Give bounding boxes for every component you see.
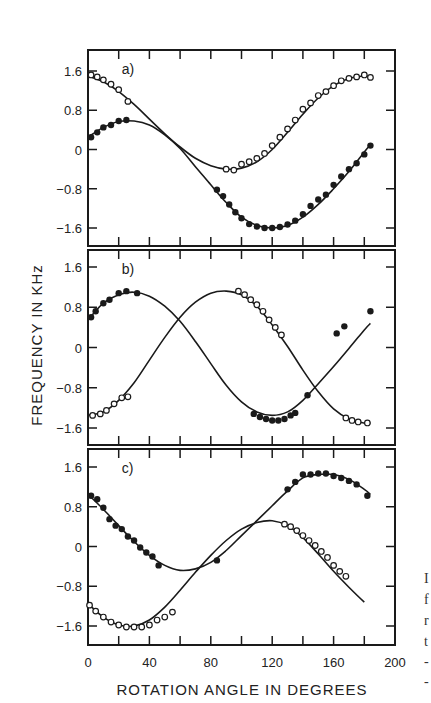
data-point-filled [149, 553, 155, 559]
data-point-open [323, 89, 329, 95]
data-point-filled [125, 533, 131, 539]
y-tick-label: 0.8 [64, 103, 82, 118]
x-tick-labels: 04080120160200 [84, 655, 405, 670]
data-point-filled [123, 117, 129, 123]
data-point-filled [108, 122, 114, 128]
data-point-open [346, 76, 352, 82]
data-point-filled [353, 481, 359, 487]
x-tick-label: 200 [384, 655, 406, 670]
x-tick-label: 0 [84, 655, 91, 670]
data-point-filled [88, 314, 94, 320]
data-point-filled [333, 330, 339, 336]
data-point-open [315, 93, 321, 99]
data-point-open [272, 325, 278, 331]
data-point-open [254, 302, 260, 308]
data-point-filled [246, 221, 252, 227]
data-point-open [170, 609, 176, 615]
data-point-open [131, 624, 137, 630]
panel-b: 1.60.80−0.8−1.6b) [56, 250, 395, 445]
data-point-open [125, 99, 131, 105]
data-point-filled [123, 288, 129, 294]
panel-label: a) [122, 61, 134, 77]
data-point-filled [232, 209, 238, 215]
data-point-open [338, 78, 344, 84]
data-point-open [355, 419, 361, 425]
data-point-open [223, 166, 229, 172]
data-point-open [147, 622, 153, 628]
caption-fragment: r [424, 613, 429, 628]
data-point-open [362, 72, 368, 78]
caption-fragment: - [424, 654, 429, 669]
y-tick-label: −1.6 [56, 619, 82, 634]
data-point-filled [214, 187, 220, 193]
panel-c: 1.60.80−0.8−1.6c) [56, 449, 395, 645]
data-point-open [262, 151, 268, 157]
data-point-open [248, 297, 254, 303]
data-point-filled [364, 493, 370, 499]
data-point-filled [277, 224, 283, 230]
data-point-filled [106, 516, 112, 522]
data-point-filled [88, 134, 94, 140]
data-point-filled [251, 411, 257, 417]
data-point-filled [307, 471, 313, 477]
data-point-open [139, 624, 145, 630]
data-point-open [87, 602, 93, 608]
data-point-open [239, 161, 245, 167]
x-axis-title: ROTATION ANGLE IN DEGREES [116, 681, 367, 698]
x-tick-label: 160 [323, 655, 345, 670]
data-point-filled [300, 211, 306, 217]
data-point-filled [131, 537, 137, 543]
data-point-filled [284, 221, 290, 227]
panel-label: c) [122, 460, 134, 476]
data-point-filled [94, 129, 100, 135]
data-point-open [108, 81, 114, 87]
data-point-open [300, 106, 306, 112]
data-point-open [343, 415, 349, 421]
data-point-open [231, 167, 237, 173]
data-point-open [162, 614, 168, 620]
panel-label: b) [122, 261, 134, 277]
data-point-open [368, 75, 374, 81]
data-point-filled [315, 196, 321, 202]
data-point-open [101, 77, 107, 83]
data-point-filled [323, 470, 329, 476]
data-point-filled [112, 522, 118, 528]
data-point-filled [367, 308, 373, 314]
data-point-open [124, 624, 130, 630]
data-point-filled [353, 160, 359, 166]
y-tick-label: 1.6 [64, 460, 82, 475]
data-point-open [116, 87, 122, 93]
data-point-filled [119, 526, 125, 532]
y-tick-label: 0 [75, 540, 82, 555]
data-point-filled [275, 417, 281, 423]
data-point-open [97, 411, 103, 417]
data-point-filled [307, 203, 313, 209]
data-point-open [325, 555, 331, 561]
data-point-filled [226, 201, 232, 207]
data-point-open [260, 308, 266, 314]
data-point-open [90, 413, 96, 419]
data-point-filled [100, 505, 106, 511]
data-point-filled [116, 118, 122, 124]
data-point-filled [261, 225, 267, 231]
data-point-filled [92, 308, 98, 314]
data-point-open [104, 408, 110, 414]
data-point-filled [134, 290, 140, 296]
data-point-filled [346, 166, 352, 172]
data-point-open [300, 533, 306, 539]
y-tick-label: −0.8 [56, 182, 82, 197]
data-point-open [285, 126, 291, 132]
data-point-filled [143, 549, 149, 555]
data-point-filled [304, 392, 310, 398]
data-point-open [111, 401, 117, 407]
y-tick-label: 1.6 [64, 260, 82, 275]
y-tick-label: −0.8 [56, 381, 82, 396]
x-tick-label: 120 [261, 655, 283, 670]
data-point-open [116, 622, 122, 628]
data-point-open [312, 543, 318, 549]
data-point-open [254, 156, 260, 162]
data-point-open [266, 317, 272, 323]
y-tick-label: −0.8 [56, 579, 82, 594]
data-point-filled [330, 473, 336, 479]
data-point-open [242, 292, 248, 298]
